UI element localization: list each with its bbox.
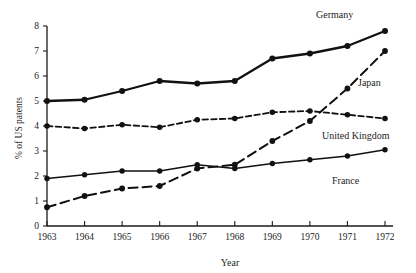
data-point <box>269 56 275 62</box>
data-point <box>44 123 50 129</box>
data-point <box>119 186 125 192</box>
data-point <box>157 183 163 189</box>
data-point <box>307 108 313 114</box>
x-tick-label: 1969 <box>263 232 282 242</box>
data-point <box>232 166 237 171</box>
y-tick-label: 4 <box>34 121 39 131</box>
y-tick-label: 2 <box>34 171 39 181</box>
data-point <box>119 88 125 94</box>
data-point <box>307 51 313 57</box>
patent-share-line-chart: 012345678 196319641965196619671968196919… <box>0 0 416 273</box>
y-tick-labels: 012345678 <box>34 21 39 231</box>
data-point <box>44 176 49 181</box>
y-tick-label: 5 <box>34 96 39 106</box>
data-point <box>232 116 238 122</box>
x-tick-label: 1970 <box>300 232 319 242</box>
x-tick-label: 1965 <box>113 232 132 242</box>
data-point <box>119 122 125 128</box>
series-label-france: France <box>332 175 360 186</box>
y-tick-label: 8 <box>34 21 39 31</box>
data-point <box>194 117 200 123</box>
data-point <box>82 193 88 199</box>
y-tick-label: 0 <box>34 221 39 231</box>
data-point <box>44 98 50 104</box>
data-point <box>157 168 162 173</box>
data-point <box>307 118 313 124</box>
x-tick-label: 1963 <box>38 232 57 242</box>
data-point <box>157 124 163 130</box>
data-point <box>270 109 276 115</box>
series-line-united-kingdom <box>47 111 385 129</box>
data-point <box>44 204 50 210</box>
data-point <box>82 97 88 103</box>
data-point <box>269 138 275 144</box>
data-point <box>345 112 351 118</box>
x-tick-label: 1971 <box>338 232 357 242</box>
data-point <box>382 28 388 34</box>
series-line-germany <box>47 31 385 101</box>
data-point <box>232 78 238 84</box>
data-point <box>82 126 88 132</box>
x-tick-labels: 1963196419651966196719681969197019711972 <box>38 232 395 242</box>
series-label-japan: Japan <box>358 77 381 88</box>
x-tick-label: 1964 <box>75 232 94 242</box>
y-tick-label: 1 <box>34 196 39 206</box>
data-point <box>382 48 388 54</box>
data-point <box>382 147 387 152</box>
data-point <box>195 162 200 167</box>
data-point <box>382 116 388 122</box>
data-point <box>307 157 312 162</box>
series-labels: GermanyJapanUnited KingdomFrance <box>316 9 390 186</box>
y-tick-label: 7 <box>34 46 39 56</box>
x-tick-label: 1967 <box>188 232 207 242</box>
series-label-united-kingdom: United Kingdom <box>322 130 390 141</box>
axes <box>43 26 393 226</box>
series-label-germany: Germany <box>316 9 353 20</box>
data-point <box>194 81 200 87</box>
x-tick-label: 1968 <box>225 232 244 242</box>
chart-canvas: 012345678 196319641965196619671968196919… <box>0 0 416 273</box>
y-tick-label: 3 <box>34 146 39 156</box>
y-axis-title: % of US patents <box>14 97 24 159</box>
data-point <box>270 161 275 166</box>
x-tick-label: 1972 <box>376 232 395 242</box>
y-tick-label: 6 <box>34 71 39 81</box>
data-point <box>344 43 350 49</box>
data-point <box>82 172 87 177</box>
data-point <box>345 86 351 92</box>
data-point <box>157 78 163 84</box>
data-point <box>345 153 350 158</box>
x-axis-title: Year <box>221 257 240 268</box>
x-tick-label: 1966 <box>150 232 169 242</box>
data-point <box>119 168 124 173</box>
